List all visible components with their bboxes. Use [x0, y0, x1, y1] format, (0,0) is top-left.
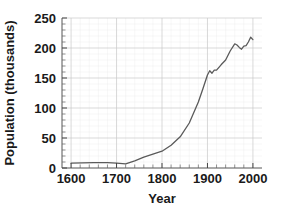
x-tick-label: 1800 — [148, 171, 177, 186]
x-tick-label: 2000 — [238, 171, 267, 186]
y-axis-tick-labels: 050100150200250 — [34, 11, 56, 176]
x-tick-label: 1900 — [193, 171, 222, 186]
y-tick-label: 250 — [34, 11, 56, 26]
x-tick-label: 1700 — [102, 171, 131, 186]
chart-canvas: 16001700180019002000 050100150200250 Yea… — [0, 0, 283, 211]
population-line-chart: 16001700180019002000 050100150200250 Yea… — [0, 0, 283, 211]
y-tick-label: 100 — [34, 101, 56, 116]
y-axis-title: Population (thousands) — [2, 20, 17, 165]
x-axis-title: Year — [148, 191, 175, 206]
y-tick-label: 0 — [49, 161, 56, 176]
y-tick-label: 150 — [34, 71, 56, 86]
y-tick-label: 200 — [34, 41, 56, 56]
x-axis-tick-labels: 16001700180019002000 — [57, 171, 268, 186]
y-tick-label: 50 — [42, 131, 56, 146]
x-tick-label: 1600 — [57, 171, 86, 186]
